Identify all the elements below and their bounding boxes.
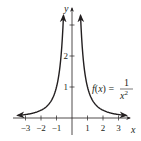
function-label-lhs-tail: ) = [103, 83, 115, 95]
y-axis-label: y [63, 3, 69, 14]
x-tick-label: −1 [52, 123, 62, 133]
x-tick-label: −2 [36, 123, 46, 133]
axis-ticks: −3−2−112312 [21, 25, 122, 133]
function-graph: −3−2−112312 x y f(x) = 1 x2 [0, 0, 141, 141]
x-tick-label: 2 [101, 123, 106, 133]
svg-text:x2: x2 [119, 89, 128, 101]
function-curve-branch [18, 16, 64, 116]
x-tick-label: 1 [85, 123, 90, 133]
function-label: f(x) = 1 x2 [92, 77, 133, 101]
svg-text:f(x) =: f(x) = [92, 83, 114, 95]
x-axis-label: x [130, 124, 136, 135]
x-tick-label: 3 [116, 123, 121, 133]
y-tick-label: 1 [64, 82, 69, 92]
function-label-exponent: 2 [124, 89, 128, 97]
function-label-numerator: 1 [124, 77, 129, 88]
y-tick-label: 2 [64, 51, 69, 61]
x-tick-label: −3 [21, 123, 31, 133]
